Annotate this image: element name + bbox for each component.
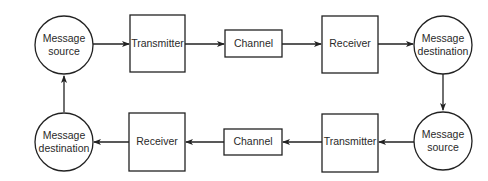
node-label-line1: Message xyxy=(422,128,465,140)
node-label-line1: Message xyxy=(422,32,465,44)
node-label: Channel xyxy=(233,135,272,147)
node-label: Transmitter xyxy=(324,135,377,147)
communication-loop-diagram: Message source Transmitter Channel Recei… xyxy=(0,0,488,181)
node-label: Transmitter xyxy=(131,37,184,49)
node-bottom-receiver: Receiver xyxy=(129,113,185,171)
node-label: Receiver xyxy=(136,135,178,147)
edges xyxy=(64,44,443,142)
node-bottom-message-destination: Message destination xyxy=(35,113,93,171)
node-label-line2: destination xyxy=(418,45,469,57)
node-label-line1: Message xyxy=(43,129,86,141)
node-top-message-source: Message source xyxy=(35,16,93,74)
node-label-line1: Message xyxy=(43,32,86,44)
node-top-message-destination: Message destination xyxy=(414,16,472,74)
node-top-transmitter: Transmitter xyxy=(130,15,185,72)
node-bottom-message-source: Message source xyxy=(414,112,472,170)
node-top-channel: Channel xyxy=(225,30,282,57)
node-label-line2: source xyxy=(48,45,80,57)
node-label-line2: source xyxy=(427,141,459,153)
node-bottom-channel: Channel xyxy=(224,129,282,155)
node-label: Channel xyxy=(234,37,273,49)
node-bottom-transmitter: Transmitter xyxy=(322,114,378,172)
node-top-receiver: Receiver xyxy=(322,16,378,73)
node-label: Receiver xyxy=(329,37,371,49)
node-label-line2: destination xyxy=(39,142,90,154)
